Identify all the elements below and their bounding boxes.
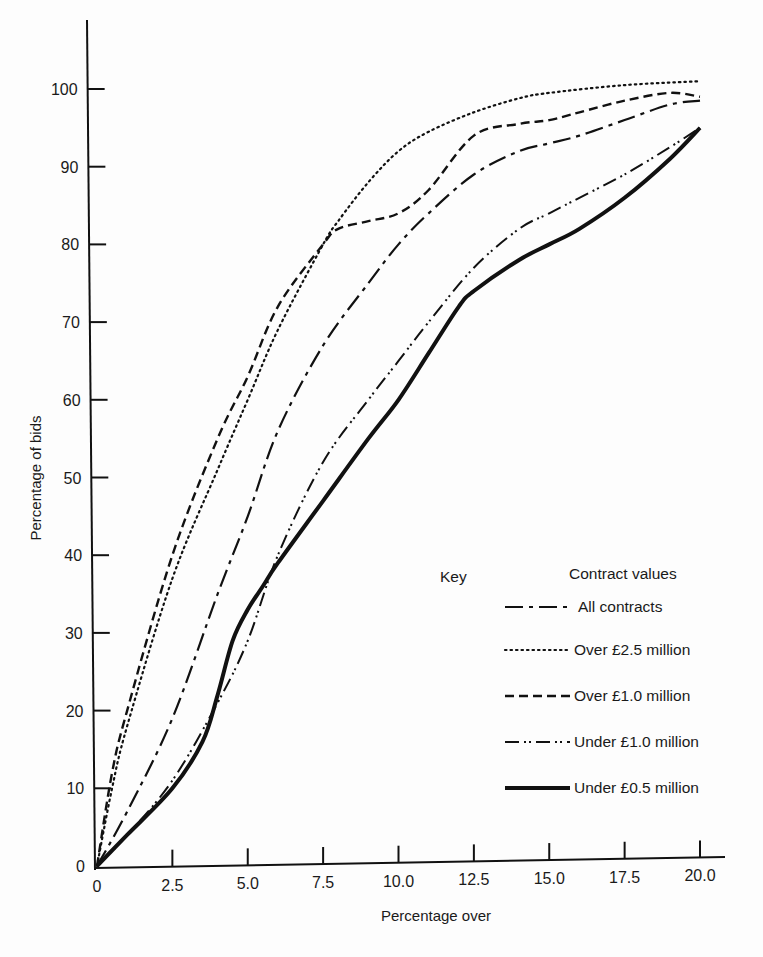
y-tick-label: 10 — [66, 780, 84, 797]
y-tick-label: 60 — [63, 392, 81, 409]
x-axis-title: Percentage over — [381, 907, 491, 924]
x-tick-label: 15.0 — [534, 870, 565, 887]
legend-label: Under £1.0 million — [574, 733, 699, 750]
y-tick-label: 70 — [62, 314, 80, 331]
x-tick-label: 0 — [93, 878, 102, 895]
legend-label: All contracts — [578, 598, 663, 615]
y-axis-title: Percentage of bids — [27, 415, 44, 540]
y-tick-label: 30 — [65, 625, 83, 642]
legend-header: Contract values — [569, 565, 677, 582]
series-line-3 — [97, 128, 700, 866]
x-tick-label: 10.0 — [383, 873, 414, 890]
x-tick-label: 5.0 — [237, 875, 259, 892]
y-tick-label: 90 — [61, 159, 79, 176]
x-tick-label: 12.5 — [458, 871, 489, 888]
x-tick-label: 7.5 — [312, 874, 334, 891]
x-tick-label: 17.5 — [609, 869, 640, 886]
line-chart: 010203040506070809010002.55.07.510.012.5… — [0, 0, 763, 957]
legend-label: Under £0.5 million — [574, 779, 699, 796]
y-axis-line — [87, 20, 95, 870]
y-tick-label: 100 — [51, 81, 78, 98]
x-tick-label: 2.5 — [161, 877, 183, 894]
y-tick-label: 50 — [64, 470, 82, 487]
y-tick-label: 80 — [61, 236, 79, 253]
x-tick-label: 20.0 — [684, 867, 715, 884]
legend-label: Over £1.0 million — [574, 687, 690, 704]
series-line-0 — [97, 101, 700, 866]
y-tick-label: 40 — [64, 547, 82, 564]
legend: All contractsOver £2.5 millionOver £1.0 … — [505, 598, 699, 796]
y-tick-label: 0 — [76, 858, 85, 875]
legend-label: Over £2.5 million — [574, 641, 690, 658]
x-axis-line — [95, 857, 725, 868]
legend-key-label: Key — [440, 568, 467, 585]
y-tick-label: 20 — [66, 703, 84, 720]
